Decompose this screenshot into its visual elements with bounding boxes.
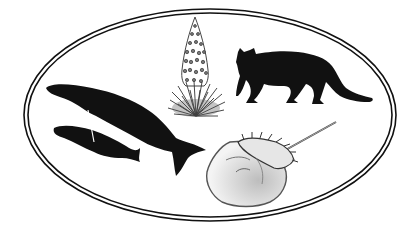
- cougar-icon: [236, 48, 373, 104]
- emblem-illustration: [0, 0, 415, 231]
- silversword-icon: [168, 17, 225, 117]
- humpback-whale-icon: [46, 84, 206, 176]
- horseshoe-crab-icon: [207, 122, 336, 207]
